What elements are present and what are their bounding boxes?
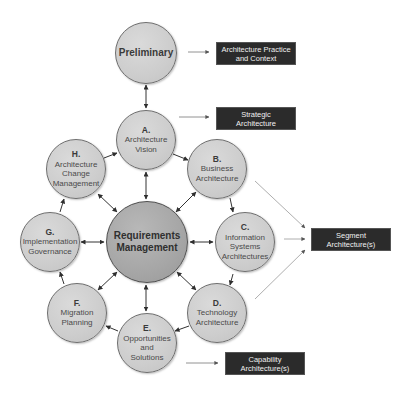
phase-g-letter: G. <box>46 228 55 238</box>
output-segment-architecture: Segment Architecture(s) <box>311 228 391 251</box>
phase-c-letter: C. <box>241 223 250 233</box>
phase-preliminary-label: Preliminary <box>119 48 173 58</box>
phase-h-letter: H. <box>72 150 81 160</box>
arrow-b-c <box>230 198 233 212</box>
requirements-management-label: Requirements Management <box>114 230 181 254</box>
phase-e-label: Opportunities and Solutions <box>123 334 171 363</box>
phase-e: E. Opportunities and Solutions <box>117 313 177 373</box>
phase-d-letter: D. <box>213 299 222 309</box>
phase-f-label: Migration Planning <box>61 308 94 327</box>
spoke-b <box>176 192 196 212</box>
output-architecture-practice: Architecture Practice and Context <box>216 42 296 65</box>
requirements-management: Requirements Management <box>106 201 188 283</box>
output-capability-architecture: Capability Architecture(s) <box>225 352 305 375</box>
phase-d-label: Technology Architecture <box>196 308 239 327</box>
phase-b: B. Business Architecture <box>187 139 247 199</box>
phase-b-letter: B. <box>213 155 222 165</box>
arrow-h-a <box>104 153 117 158</box>
phase-h: H. Architecture Change Management <box>46 139 106 199</box>
phase-f: F. Migration Planning <box>47 283 107 343</box>
phase-g-label: Implementation Governance <box>23 237 78 256</box>
output-strategic-architecture: Strategic Architecture <box>216 107 296 130</box>
phase-a-letter: A. <box>142 126 151 136</box>
phase-preliminary: Preliminary <box>115 22 177 84</box>
arrow-c-d <box>230 274 233 285</box>
arrow-f-g <box>60 272 64 284</box>
phase-e-letter: E. <box>143 324 151 334</box>
spoke-d <box>177 272 196 290</box>
phase-h-label: Architecture Change Management <box>53 160 100 189</box>
phase-g: G. Implementation Governance <box>20 212 80 272</box>
phase-c-label: Information Systems Architectures <box>222 233 269 262</box>
phase-a-label: Architecture Vision <box>125 135 168 154</box>
arrow-a-b <box>173 154 188 160</box>
phase-a: A. Architecture Vision <box>116 110 176 170</box>
phase-c: C. Information Systems Architectures <box>215 212 275 272</box>
spoke-h <box>98 194 117 212</box>
spoke-f <box>98 272 117 290</box>
arrow-g-h <box>60 199 64 212</box>
arrow-e-f <box>106 326 118 331</box>
phase-b-label: Business Architecture <box>196 164 239 183</box>
phase-d: D. Technology Architecture <box>187 283 247 343</box>
arrow-d-e <box>175 326 189 331</box>
phase-f-letter: F. <box>74 299 81 309</box>
